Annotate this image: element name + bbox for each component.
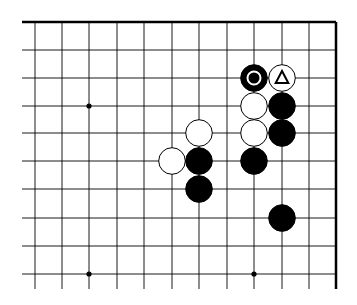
white-stone [186, 120, 213, 147]
black-stone [186, 176, 213, 203]
black-stone [241, 148, 268, 175]
white-stone [241, 120, 268, 147]
black-stone [269, 93, 296, 120]
star-point [86, 271, 91, 276]
star-point [251, 271, 256, 276]
go-board [0, 0, 357, 305]
white-stone [269, 65, 296, 92]
black-stone [186, 148, 213, 175]
white-stone [159, 148, 186, 175]
white-stone [241, 93, 268, 120]
black-stone [269, 120, 296, 147]
black-stone [269, 205, 296, 232]
star-point [86, 103, 91, 108]
black-stone [241, 65, 268, 92]
